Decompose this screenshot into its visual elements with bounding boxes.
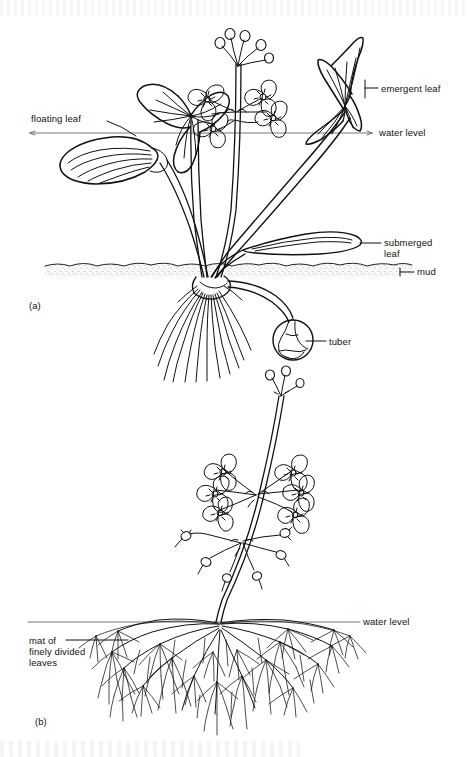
flower-whorl-open	[188, 80, 287, 148]
panel-id-a: (a)	[29, 300, 41, 311]
tuber	[273, 319, 313, 360]
panel-id-b: (b)	[35, 716, 47, 727]
label-water-level-top: water level	[379, 127, 426, 138]
root-crown	[154, 276, 251, 382]
flower	[204, 454, 236, 490]
label-mud: mud	[417, 266, 436, 277]
stolon-and-tuber	[228, 281, 313, 360]
scan-artifact-top	[0, 0, 468, 16]
flower	[197, 476, 229, 512]
flower-bud	[251, 570, 263, 589]
flower-bud-cluster-b	[266, 366, 305, 396]
label-tuber: tuber	[329, 336, 351, 347]
floating-leaf	[60, 137, 208, 277]
flower	[275, 455, 308, 491]
label-submerged-leaf: submerged leaf	[384, 237, 432, 259]
mud-line	[45, 258, 412, 278]
emergent-leaf	[212, 38, 363, 278]
flower-bud	[279, 527, 292, 540]
scan-artifact-bottom-caption	[0, 741, 300, 757]
flower	[278, 498, 310, 533]
flower-bud	[175, 530, 192, 547]
flower	[255, 101, 287, 137]
label-water-level-bottom: water level	[363, 616, 410, 627]
flower-bud	[198, 556, 212, 574]
label-floating-leaf: floating leaf	[31, 113, 81, 124]
leader-lines-a	[107, 80, 414, 341]
mat-of-finely-divided-leaves	[79, 619, 366, 735]
flower-whorl-b-upper	[197, 454, 315, 533]
flower-bud-whorl	[215, 29, 274, 67]
label-mat-of-leaves: mat of finely divided leaves	[29, 635, 85, 668]
label-emergent-leaf: emergent leaf	[381, 83, 440, 94]
flower-whorl-b-lower	[175, 527, 292, 591]
flower-bud	[275, 549, 289, 566]
